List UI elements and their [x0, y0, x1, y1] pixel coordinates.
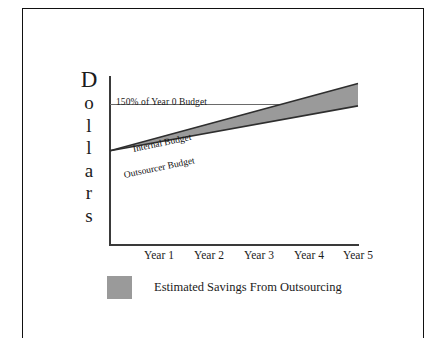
x-axis-tick-year-2: Year 2 [181, 249, 237, 261]
legend-label-savings: Estimated Savings From Outsourcing [154, 280, 342, 295]
x-axis-tick-year-3: Year 3 [231, 249, 287, 261]
legend-swatch-savings [107, 276, 132, 299]
chart-legend: Estimated Savings From Outsourcing [107, 276, 342, 299]
x-axis-tick-year-5: Year 5 [330, 249, 386, 261]
x-axis-tick-year-4: Year 4 [281, 249, 337, 261]
x-axis-tick-labels: Year 1 Year 2 Year 3 Year 4 Year 5 [109, 249, 361, 267]
x-axis-tick-year-1: Year 1 [131, 249, 187, 261]
